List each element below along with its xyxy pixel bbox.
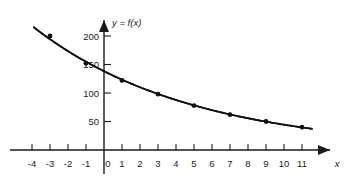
data-point-markers (48, 34, 305, 130)
data-point (84, 61, 89, 66)
function-graph-figure: -4 -3 -2 -1 0 1 2 3 4 5 6 7 8 9 10 11 x (0, 0, 355, 180)
x-axis-tick-labels: -4 -3 -2 -1 0 1 2 3 4 5 6 7 8 9 10 11 (28, 158, 307, 169)
x-axis-group: -4 -3 -2 -1 0 1 2 3 4 5 6 7 8 9 10 11 x (10, 144, 341, 169)
x-tick-label: 1 (119, 158, 124, 169)
plot-area: -4 -3 -2 -1 0 1 2 3 4 5 6 7 8 9 10 11 x (0, 0, 355, 180)
function-curve (34, 27, 312, 128)
data-point (300, 125, 305, 130)
x-tick-label: 7 (227, 158, 232, 169)
x-tick-label: 4 (173, 158, 178, 169)
x-tick-label: 8 (245, 158, 250, 169)
x-tick-label: -3 (46, 158, 54, 169)
x-axis-arrow-icon (318, 145, 330, 155)
x-tick-label: 11 (297, 158, 307, 169)
y-tick-label: 200 (83, 31, 99, 42)
y-tick-label: 50 (88, 116, 99, 127)
y-axis-ticks (104, 36, 111, 122)
x-tick-label: 3 (155, 158, 160, 169)
function-curve-smooth (34, 27, 312, 128)
x-tick-label: 9 (263, 158, 268, 169)
function-curve-group (34, 27, 312, 128)
x-tick-label: 2 (137, 158, 142, 169)
y-axis-tick-labels: 50 100 150 200 (83, 31, 99, 128)
x-tick-label: 6 (209, 158, 214, 169)
data-point (264, 119, 269, 124)
data-point (228, 112, 233, 117)
x-tick-label: 10 (279, 158, 290, 169)
y-axis-label: y = f(x) (111, 17, 141, 28)
x-axis-label: x (334, 158, 341, 169)
x-axis-ticks (32, 144, 302, 150)
data-point (120, 78, 125, 83)
data-point (156, 92, 161, 97)
y-axis-arrow-icon (99, 20, 109, 32)
x-tick-label: -1 (82, 158, 90, 169)
x-tick-label: -2 (64, 158, 72, 169)
x-tick-label: 5 (191, 158, 196, 169)
x-tick-label: 0 (105, 158, 110, 169)
data-point (48, 34, 53, 39)
data-point (192, 103, 197, 108)
y-tick-label: 100 (83, 88, 99, 99)
x-tick-label: -4 (28, 158, 36, 169)
